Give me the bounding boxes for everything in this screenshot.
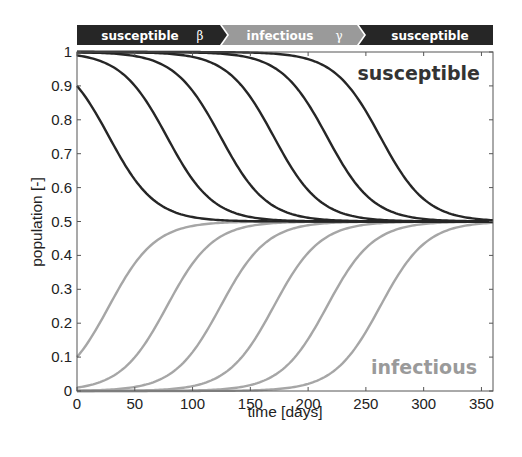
x-tick-label: 100 xyxy=(180,395,205,412)
y-tick-label: 0.6 xyxy=(51,179,72,196)
y-tick-label: 0.8 xyxy=(51,111,72,128)
beta-symbol: β xyxy=(197,29,204,43)
x-tick-label: 250 xyxy=(353,395,378,412)
banner-label-infectious: infectious xyxy=(247,29,314,43)
gamma-symbol: γ xyxy=(335,29,342,43)
susceptible-annotation: susceptible xyxy=(358,62,481,84)
y-axis-label: population [-] xyxy=(28,177,45,267)
banner-label-susceptible-2: susceptible xyxy=(391,29,468,43)
x-tick-label: 0 xyxy=(73,395,81,412)
sis-chart: susceptible β infectious γ susceptible 0… xyxy=(0,0,522,457)
y-tick-label: 0.9 xyxy=(51,77,72,94)
y-tick-label: 1 xyxy=(64,43,72,60)
susceptible-curve xyxy=(77,86,493,222)
x-tick-label: 50 xyxy=(126,395,143,412)
y-tick-label: 0.2 xyxy=(51,314,72,331)
x-axis-label: time [days] xyxy=(248,403,323,420)
banner-label-susceptible-1: susceptible xyxy=(101,29,178,43)
infectious-curve xyxy=(77,222,493,358)
x-tick-label: 350 xyxy=(469,395,494,412)
stage-banner: susceptible β infectious γ susceptible xyxy=(77,25,493,45)
y-tick-label: 0.4 xyxy=(51,246,72,263)
infectious-annotation: infectious xyxy=(371,356,477,378)
y-tick-label: 0.5 xyxy=(51,213,72,230)
y-tick-label: 0.3 xyxy=(51,280,72,297)
y-tick-label: 0.1 xyxy=(51,348,72,365)
plot-curves xyxy=(77,52,493,391)
y-tick-label: 0 xyxy=(64,382,72,399)
x-tick-label: 300 xyxy=(411,395,436,412)
y-tick-label: 0.7 xyxy=(51,145,72,162)
